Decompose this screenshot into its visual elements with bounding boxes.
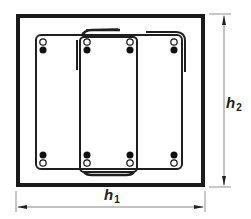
arrow-down-icon	[222, 176, 226, 186]
bar-filled	[40, 47, 47, 54]
bar-filled	[171, 152, 178, 159]
bar-open	[40, 160, 46, 166]
bar-filled	[84, 47, 91, 54]
bottom-bars	[40, 152, 178, 167]
bar-open	[171, 160, 177, 166]
outer-stirrup	[36, 35, 182, 169]
column-section-diagram	[0, 0, 251, 219]
outer-stirrup-hook	[146, 32, 185, 72]
bar-filled	[127, 152, 134, 159]
width-dimension-label: h1	[104, 187, 120, 205]
inner-stirrup-hook-2	[86, 29, 118, 30]
bar-open	[127, 39, 133, 45]
inner-stirrup	[80, 37, 137, 172]
bar-filled	[40, 152, 47, 159]
top-bars	[40, 39, 178, 54]
bar-open	[127, 160, 133, 166]
arrow-up-icon	[222, 15, 226, 25]
dimension-symbol: h	[226, 94, 235, 111]
bar-filled	[171, 47, 178, 54]
bar-filled	[127, 47, 134, 54]
dimension-symbol: h	[104, 186, 113, 203]
bar-open	[84, 39, 90, 45]
arrow-right-icon	[194, 205, 204, 209]
dimension-subscript: 1	[114, 194, 120, 205]
bar-filled	[84, 152, 91, 159]
bar-open	[84, 160, 90, 166]
bar-open	[40, 39, 46, 45]
dimension-subscript: 2	[236, 102, 242, 113]
bar-open	[171, 39, 177, 45]
arrow-left-icon	[17, 205, 27, 209]
height-dimension-label: h2	[226, 95, 242, 113]
